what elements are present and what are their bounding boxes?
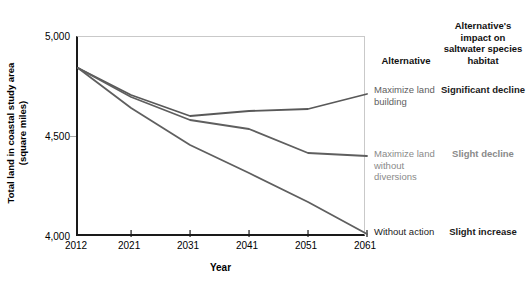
plot-area <box>76 36 365 236</box>
x-tick-label-2041: 2041 <box>236 240 258 251</box>
y-tick-label-4500: 4,500 <box>30 131 70 142</box>
series-line <box>78 68 367 234</box>
series-lines <box>78 68 367 234</box>
x-axis-title: Year <box>76 262 365 273</box>
x-tick-label-2031: 2031 <box>177 240 199 251</box>
annotation-header-row: Alternative Alternative's impact on salt… <box>372 8 526 66</box>
annotation-alternative-label: Maximize land building <box>374 84 440 107</box>
series-line <box>78 68 367 156</box>
annotation-impact-label: Slight decline <box>440 148 526 160</box>
series-layer <box>76 36 369 240</box>
annotation-header-impact: Alternative's impact on saltwater specie… <box>440 20 526 66</box>
chart-figure: Total land in coastal study area (square… <box>0 0 526 290</box>
x-tick-label-2021: 2021 <box>118 240 140 251</box>
annotation-alternative-label: Without action <box>374 226 440 238</box>
y-axis-title: Total land in coastal study area (square… <box>0 28 34 238</box>
annotation-table: Alternative Alternative's impact on salt… <box>372 8 526 282</box>
annotation-impact-label: Significant decline <box>440 84 526 96</box>
y-axis-title-line2: (square miles) <box>17 63 29 204</box>
annotation-impact-label: Slight increase <box>440 226 526 238</box>
y-axis-title-line1: Total land in coastal study area <box>5 63 16 204</box>
y-tick-label-5000: 5,000 <box>30 31 70 42</box>
annotation-alternative-label: Maximize land without diversions <box>374 148 440 183</box>
x-tick-marks <box>131 230 367 237</box>
x-tick-label-2012: 2012 <box>65 240 87 251</box>
annotation-header-alternative: Alternative <box>374 55 438 67</box>
x-tick-label-2051: 2051 <box>295 240 317 251</box>
